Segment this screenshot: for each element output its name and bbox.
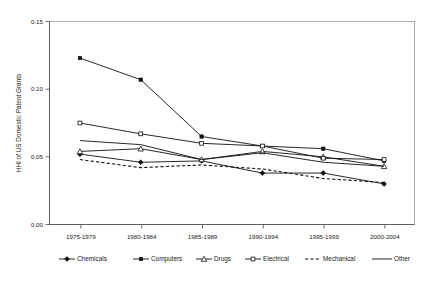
line-chart: 0.00 0.05 0.10 0.15 HHI of US Domestic P… bbox=[0, 0, 433, 282]
series-line-computers bbox=[80, 58, 384, 161]
data-point-electrical-1 bbox=[139, 132, 143, 136]
legend-label-chemicals: Chemicals bbox=[77, 255, 107, 262]
y-axis-tick-labels: 0.00 0.05 0.10 0.15 bbox=[31, 18, 44, 228]
y-tick-label-1: 0.05 bbox=[31, 153, 44, 160]
data-point-computers-1 bbox=[139, 78, 142, 81]
plot-area-frame bbox=[50, 22, 415, 225]
x-tick-label-0: 1975-1979 bbox=[66, 233, 96, 240]
legend-marker-chemicals bbox=[65, 257, 70, 262]
legend-item-drugs[interactable]: Drugs bbox=[196, 255, 231, 263]
y-tick-label-0: 0.00 bbox=[31, 221, 44, 228]
data-point-electrical-5 bbox=[382, 158, 386, 162]
legend-item-computers[interactable]: Computers bbox=[133, 255, 182, 263]
data-point-electrical-3 bbox=[261, 144, 265, 148]
series-layer bbox=[77, 56, 387, 186]
y-axis-ticks bbox=[46, 22, 50, 225]
x-tick-label-4: 1995-1999 bbox=[309, 233, 339, 240]
x-tick-label-3: 1990-1994 bbox=[249, 233, 279, 240]
series-computers bbox=[78, 56, 386, 162]
legend-label-computers: Computers bbox=[151, 255, 182, 263]
legend-label-electrical: Electrical bbox=[263, 255, 289, 262]
data-point-computers-4 bbox=[322, 147, 325, 150]
data-point-electrical-2 bbox=[200, 141, 204, 145]
x-tick-label-2: 1985-1989 bbox=[188, 233, 218, 240]
legend-marker-computers bbox=[139, 257, 142, 260]
data-point-electrical-0 bbox=[78, 121, 82, 125]
chart-figure: 0.00 0.05 0.10 0.15 HHI of US Domestic P… bbox=[0, 0, 433, 282]
x-tick-label-5: 2000-2004 bbox=[370, 233, 400, 240]
data-point-chemicals-3 bbox=[260, 171, 265, 176]
x-axis-tick-labels: 1975-1979 1980-1984 1985-1989 1990-1994 … bbox=[66, 233, 400, 240]
data-point-chemicals-4 bbox=[321, 171, 326, 176]
legend-item-other[interactable]: Other bbox=[372, 255, 411, 262]
legend-item-mechanical[interactable]: Mechanical bbox=[305, 255, 355, 262]
data-point-computers-0 bbox=[78, 56, 81, 59]
legend-marker-electrical bbox=[251, 257, 255, 261]
y-tick-label-2: 0.10 bbox=[31, 85, 44, 92]
legend-label-other: Other bbox=[394, 255, 411, 262]
x-axis-ticks bbox=[81, 225, 385, 229]
data-point-computers-2 bbox=[200, 135, 203, 138]
data-point-electrical-4 bbox=[321, 156, 325, 160]
legend-label-mechanical: Mechanical bbox=[323, 255, 355, 262]
legend-item-electrical[interactable]: Electrical bbox=[245, 255, 289, 262]
legend-label-drugs: Drugs bbox=[214, 255, 231, 263]
chart-legend: ChemicalsComputersDrugsElectricalMechani… bbox=[59, 255, 411, 263]
legend-item-chemicals[interactable]: Chemicals bbox=[59, 255, 107, 262]
x-tick-label-1: 1980-1984 bbox=[127, 233, 157, 240]
data-point-chemicals-1 bbox=[138, 160, 143, 165]
y-tick-label-3: 0.15 bbox=[31, 18, 44, 25]
y-axis-title: HHI of US Domestic Patent Grants bbox=[15, 74, 22, 172]
series-chemicals bbox=[77, 152, 386, 187]
